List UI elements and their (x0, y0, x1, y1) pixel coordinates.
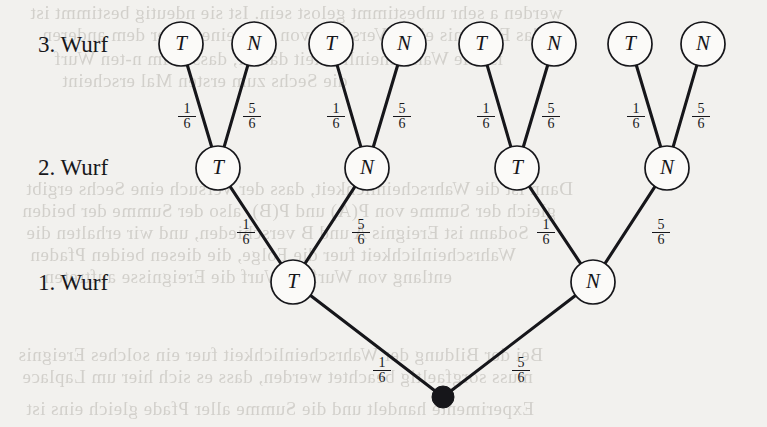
fraction-denominator: 6 (542, 116, 560, 131)
node-label: N (585, 269, 601, 293)
tree-node: N (345, 146, 389, 190)
edge-probability: 56 (352, 218, 370, 247)
node-label: N (659, 155, 675, 179)
fraction-denominator: 6 (652, 232, 670, 247)
tree-node: N (645, 146, 689, 190)
edge-probability: 16 (327, 102, 345, 131)
tree-node: T (495, 146, 539, 190)
edge-probability: 16 (237, 218, 255, 247)
node-label: T (325, 31, 338, 55)
node-label: T (511, 155, 524, 179)
tree-edge (605, 187, 654, 263)
fraction-denominator: 6 (352, 232, 370, 247)
node-label: T (212, 155, 225, 179)
fraction-denominator: 6 (512, 370, 530, 385)
fraction-denominator: 6 (327, 116, 345, 131)
fraction-numerator: 5 (243, 102, 261, 116)
fraction-numerator: 5 (692, 102, 710, 116)
edge-probability: 56 (652, 218, 670, 247)
node-label: N (246, 31, 262, 55)
fraction-denominator: 6 (393, 116, 411, 131)
fraction-denominator: 6 (692, 116, 710, 131)
fraction-numerator: 5 (393, 102, 411, 116)
tree-node: N (532, 22, 576, 66)
fraction-denominator: 6 (537, 232, 555, 247)
tree-node: T (159, 22, 203, 66)
tree-node: T (271, 260, 315, 304)
edge-probability: 16 (627, 102, 645, 131)
fraction-numerator: 1 (178, 102, 196, 116)
edge-probability: 16 (373, 356, 391, 385)
tree-node: N (681, 22, 725, 66)
fraction-numerator: 1 (537, 218, 555, 232)
edge-probability: 16 (477, 102, 495, 131)
fraction-numerator: 1 (237, 218, 255, 232)
stage-label-level1: 1. Wurf (38, 270, 108, 296)
edge-probability: 56 (243, 102, 261, 131)
edge-probability: 56 (692, 102, 710, 131)
edge-probability: 16 (537, 218, 555, 247)
fraction-numerator: 5 (652, 218, 670, 232)
edge-probability: 56 (512, 356, 530, 385)
fraction-numerator: 5 (512, 356, 530, 370)
node-label: N (546, 31, 562, 55)
edge-probability: 56 (393, 102, 411, 131)
tree-node: T (459, 22, 503, 66)
tree-node: N (382, 22, 426, 66)
node-label: T (624, 31, 637, 55)
edge-probability: 16 (178, 102, 196, 131)
tree-node: T (608, 22, 652, 66)
fraction-numerator: 1 (373, 356, 391, 370)
fraction-numerator: 1 (477, 102, 495, 116)
stage-label-level2: 2. Wurf (38, 155, 108, 181)
fraction-denominator: 6 (477, 116, 495, 131)
edge-probability: 56 (542, 102, 560, 131)
fraction-denominator: 6 (237, 232, 255, 247)
node-label: T (175, 31, 188, 55)
node-label: N (359, 155, 375, 179)
fraction-numerator: 1 (627, 102, 645, 116)
node-label: N (695, 31, 711, 55)
tree-node: N (571, 260, 615, 304)
fraction-numerator: 5 (352, 218, 370, 232)
node-label: N (396, 31, 412, 55)
fraction-denominator: 6 (627, 116, 645, 131)
fraction-numerator: 1 (327, 102, 345, 116)
node-label: T (475, 31, 488, 55)
tree-node: N (232, 22, 276, 66)
root-node (432, 386, 454, 408)
fraction-denominator: 6 (243, 116, 261, 131)
stage-label-level3: 3. Wurf (38, 32, 108, 58)
fraction-denominator: 6 (373, 370, 391, 385)
diagram-canvas: werden a sehr unbestimmt gelost sein. Is… (0, 0, 767, 427)
tree-node: T (309, 22, 353, 66)
fraction-numerator: 5 (542, 102, 560, 116)
node-label: T (287, 269, 300, 293)
fraction-denominator: 6 (178, 116, 196, 131)
tree-node: T (196, 146, 240, 190)
tree-edge (305, 187, 354, 263)
